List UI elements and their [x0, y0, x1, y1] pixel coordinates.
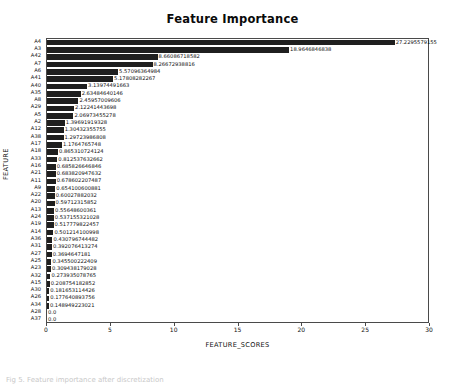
bar [47, 135, 64, 141]
y-axis-tick-label: A29 [31, 105, 41, 110]
bar [47, 62, 153, 68]
bar [47, 54, 158, 60]
bars-layer: 27.229557915518.96468468388.660867185828… [47, 39, 428, 322]
y-axis-tick-label: A37 [31, 317, 41, 322]
bar [47, 288, 49, 294]
y-axis-tick-label: A26 [31, 295, 41, 300]
bar-value-label: 5.17808282267 [114, 77, 155, 82]
y-axis-tick-label: A8 [34, 98, 41, 103]
y-axis-tick-label: A25 [31, 258, 41, 263]
x-tick-label: 20 [298, 327, 306, 333]
bar-row: 0.59712315852 [47, 201, 428, 207]
bar-row: 1.30432355755 [47, 127, 428, 133]
bar [47, 179, 56, 185]
bar-row: 0.430796744482 [47, 237, 428, 243]
bar [47, 222, 54, 228]
bar [47, 208, 54, 214]
bar-row: 3.13974491663 [47, 84, 428, 90]
y-axis-tick-label: A32 [31, 273, 41, 278]
bar [47, 142, 62, 148]
x-tick-label: 25 [361, 327, 369, 333]
bar-row: 0.345500222409 [47, 259, 428, 265]
bar [47, 40, 395, 46]
chart-title: Feature Importance [0, 12, 465, 26]
bar [47, 120, 65, 126]
x-tick-label: 5 [108, 327, 112, 333]
bar-row: 0.273935078765 [47, 274, 428, 280]
y-axis-tick-label: A38 [31, 134, 41, 139]
y-axis-tick-label: A16 [31, 163, 41, 168]
y-axis-tick-label: A3 [34, 46, 41, 51]
bar-row: 0.177640893756 [47, 296, 428, 302]
bar-value-label: 2.12241443698 [75, 106, 116, 111]
y-axis-tick-label: A42 [31, 54, 41, 59]
y-axis-tick-label: A20 [31, 200, 41, 205]
bar [47, 157, 57, 163]
bar [47, 230, 53, 236]
plot-area: 27.229557915518.96468468388.660867185828… [46, 38, 429, 323]
y-axis-tick-label: A41 [31, 76, 41, 81]
bar-value-label: 8.26672938816 [154, 62, 195, 67]
bar [47, 91, 81, 97]
bar-row: 2.12241443698 [47, 106, 428, 112]
bar-row: 0.148949223021 [47, 303, 428, 309]
bar-row: 5.17808282267 [47, 76, 428, 82]
bar-value-label: 0.678602207487 [57, 179, 102, 184]
y-axis-tick-label: A36 [31, 236, 41, 241]
bar-value-label: 0.208754182852 [51, 281, 96, 286]
bar [47, 201, 55, 207]
y-axis-tick-label: A18 [31, 149, 41, 154]
bar-value-label: 0.501214100998 [54, 230, 99, 235]
bar [47, 149, 58, 155]
bar-value-label: 0.812537632662 [58, 157, 103, 162]
bar-value-label: 5.57096364984 [119, 69, 160, 74]
bar-row: 1.1764765748 [47, 142, 428, 148]
bar [47, 164, 56, 170]
bar-value-label: 0.517779822457 [55, 223, 100, 228]
bar [47, 296, 49, 302]
bar-row: 8.66086718582 [47, 54, 428, 60]
bar-value-label: 1.30432355755 [65, 128, 106, 133]
bar-value-label: 0.273935078765 [51, 274, 96, 279]
y-axis-tick-label: A7 [34, 61, 41, 66]
bar-row: 1.39691919328 [47, 120, 428, 126]
bar [47, 303, 49, 309]
y-axis-tick-label: A12 [31, 127, 41, 132]
bar-row: 0.678602207487 [47, 179, 428, 185]
y-axis-tick-label: A35 [31, 90, 41, 95]
x-axis-ticks: 051015202530 [46, 323, 429, 339]
x-tick-label: 15 [234, 327, 242, 333]
bar [47, 84, 87, 90]
bar [47, 47, 289, 53]
bar-row: 0.181653114426 [47, 288, 428, 294]
bar-value-label: 27.2295579155 [396, 40, 437, 45]
bar-value-label: 2.06973455278 [74, 113, 115, 118]
bar-value-label: 18.9646846838 [290, 47, 331, 52]
bar-value-label: 0.3694647181 [53, 252, 91, 257]
y-axis-tick-label: A14 [31, 229, 41, 234]
x-tick-label: 30 [425, 327, 433, 333]
y-axis-tick-label: A28 [31, 309, 41, 314]
y-axis-tick-label: A30 [31, 288, 41, 293]
bar [47, 193, 55, 199]
y-axis-tick-label: A4 [34, 39, 41, 44]
bar-value-label: 0.55648600361 [55, 208, 96, 213]
bar-row: 5.57096364984 [47, 69, 428, 75]
bar-value-label: 0.345500222409 [52, 259, 97, 264]
bar [47, 113, 73, 119]
y-axis-tick-label: A34 [31, 302, 41, 307]
y-axis-tick-label: A13 [31, 207, 41, 212]
bar-value-label: 0.148949223021 [50, 303, 95, 308]
bar-value-label: 0.181653114426 [50, 288, 95, 293]
feature-importance-figure: Feature Importance FEATURE A4A3A42A7A6A4… [0, 0, 465, 390]
bar-row: 18.9646846838 [47, 47, 428, 53]
y-axis-tick-label: A33 [31, 156, 41, 161]
bar-value-label: 0.0 [48, 310, 56, 315]
bar-row: 0.501214100998 [47, 230, 428, 236]
bar [47, 244, 52, 250]
y-axis-tick-label: A15 [31, 280, 41, 285]
bar-row: 0.537155321028 [47, 215, 428, 221]
y-axis-tick-label: A31 [31, 244, 41, 249]
bar-row: 0.3694647181 [47, 252, 428, 258]
bar [47, 69, 118, 75]
